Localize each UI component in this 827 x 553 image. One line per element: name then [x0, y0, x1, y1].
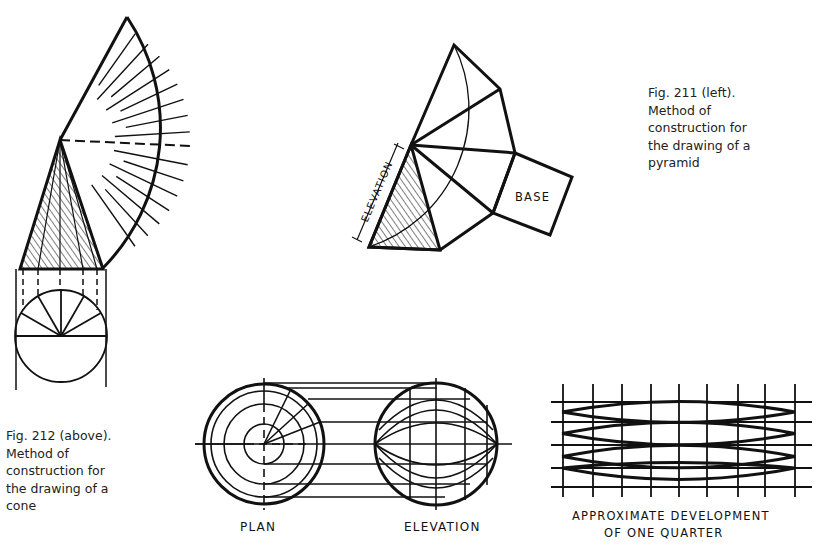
- cone-radial-line: [115, 132, 190, 137]
- cone-radial-line: [126, 115, 188, 127]
- development-label-line1: APPROXIMATE DEVELOPMENT: [572, 509, 770, 523]
- caption-line: Method of: [6, 445, 112, 463]
- plan-radial-lines: [21, 290, 101, 336]
- caption-line: Method of: [648, 102, 750, 120]
- cone-radial-line: [120, 84, 177, 111]
- caption-line: Fig. 211 (left).: [648, 84, 750, 102]
- caption-line: cone: [6, 497, 112, 515]
- caption-line: the drawing of a: [648, 137, 750, 155]
- cone-development-dashed-axis: [60, 140, 190, 146]
- sphere-development-drawing: [551, 384, 812, 497]
- pyramid-construction-drawing: [352, 45, 572, 250]
- elevation-label: ELEVATION: [404, 520, 481, 534]
- cone-construction-drawing: [15, 17, 190, 390]
- plan-label: PLAN: [240, 520, 276, 534]
- caption-line: Fig. 212 (above).: [6, 427, 112, 445]
- cone-radial-line: [114, 150, 188, 164]
- caption-line: pyramid: [648, 154, 750, 172]
- caption-line: construction for: [6, 462, 112, 480]
- dimension-tick: [352, 237, 362, 242]
- pyramid-base-label: BASE: [515, 190, 550, 204]
- cone-radial-line: [112, 99, 183, 122]
- cone-elevation-triangle: [20, 140, 103, 269]
- fig211-caption: Fig. 211 (left). Method of construction …: [648, 84, 750, 172]
- caption-line: construction for: [648, 119, 750, 137]
- fig212-caption: Fig. 212 (above). Method of construction…: [6, 427, 112, 515]
- technical-drawings: [0, 0, 827, 553]
- development-label-line2: OF ONE QUARTER: [604, 526, 723, 540]
- caption-line: the drawing of a: [6, 480, 112, 498]
